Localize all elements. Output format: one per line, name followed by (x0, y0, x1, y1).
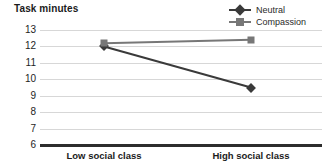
x-tick-label: High social class (212, 150, 289, 161)
legend-item-neutral: Neutral (228, 4, 327, 16)
chart-legend: Neutral Compassion (228, 4, 327, 28)
x-axis-line (40, 144, 322, 147)
y-tick-label: 12 (8, 41, 36, 51)
x-axis-labels: Low social classHigh social class (40, 150, 322, 166)
y-tick-label: 10 (8, 74, 36, 84)
y-tick-label: 8 (8, 107, 36, 117)
legend-label-neutral: Neutral (252, 4, 285, 16)
legend-key-compassion (228, 16, 252, 28)
legend-key-neutral (228, 4, 252, 16)
legend-item-compassion: Compassion (228, 16, 327, 28)
series-line (104, 46, 251, 87)
square-icon (236, 18, 244, 26)
diamond-icon (234, 4, 245, 15)
y-axis-labels: 131211109876 (4, 0, 36, 168)
y-tick-label: 9 (8, 91, 36, 101)
y-tick-label: 6 (8, 140, 36, 150)
y-tick-label: 7 (8, 124, 36, 134)
series-lines (40, 30, 322, 145)
series-line (104, 40, 251, 43)
x-tick-label: Low social class (67, 150, 142, 161)
chart-figure: Task minutes Neutral Compassion 13121110… (0, 0, 327, 168)
y-tick-label: 13 (8, 25, 36, 35)
legend-label-compassion: Compassion (252, 16, 306, 28)
y-tick-label: 11 (8, 58, 36, 68)
